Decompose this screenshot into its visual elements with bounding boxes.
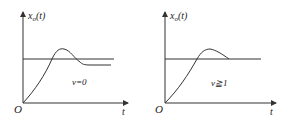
step-response-diagram: xo(t) O t v=0 xo(t) O t v≧1 — [0, 0, 294, 121]
y-axis-label: xo(t) — [27, 10, 46, 23]
x-axis-label: t — [270, 106, 273, 117]
panel-v0: xo(t) O t v=0 — [14, 10, 128, 117]
panel-v-ge-1: xo(t) O t v≧1 — [155, 10, 276, 117]
origin-label: O — [155, 103, 163, 115]
response-curve — [23, 49, 111, 103]
annotation: v≧1 — [211, 78, 228, 88]
x-axis-label: t — [122, 106, 125, 117]
annotation: v=0 — [72, 77, 87, 87]
origin-label: O — [14, 103, 22, 115]
response-curve — [165, 49, 229, 103]
y-axis-label: xo(t) — [169, 10, 188, 23]
